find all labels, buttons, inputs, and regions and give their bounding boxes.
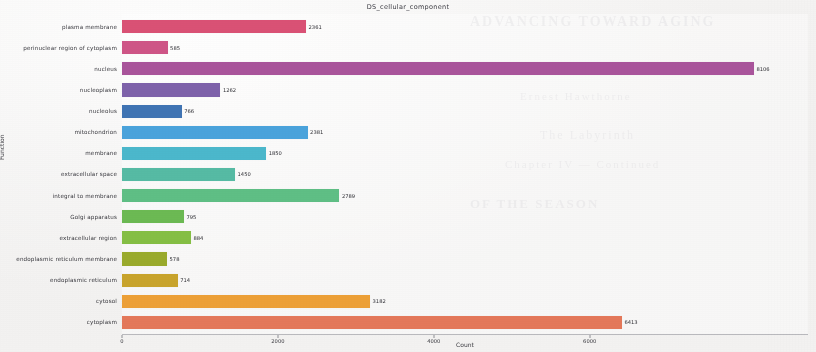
category-label: endoplasmic reticulum membrane xyxy=(16,256,117,262)
bar-value-label: 1450 xyxy=(238,171,251,177)
bar[interactable] xyxy=(122,20,306,33)
bar-row: cytosol3182 xyxy=(122,295,808,308)
category-label: cytoplasm xyxy=(87,319,117,325)
bar-row: nucleolus766 xyxy=(122,105,808,118)
bar-value-label: 2789 xyxy=(342,193,355,199)
bar[interactable] xyxy=(122,252,167,265)
bar[interactable] xyxy=(122,126,308,139)
category-label: Golgi apparatus xyxy=(70,214,117,220)
category-label: nucleus xyxy=(94,66,117,72)
category-label: nucleoplasm xyxy=(80,87,117,93)
chart-figure: DS_cellular_component Function Count pla… xyxy=(0,0,816,352)
bar-row: perinuclear region of cytoplasm585 xyxy=(122,41,808,54)
bar[interactable] xyxy=(122,316,622,329)
category-label: nucleolus xyxy=(89,108,117,114)
bar-series: plasma membrane2361perinuclear region of… xyxy=(122,14,808,335)
category-label: mitochondrion xyxy=(74,129,117,135)
bar-row: extracellular space1450 xyxy=(122,168,808,181)
bar-value-label: 585 xyxy=(170,45,180,51)
x-tick-label: 0 xyxy=(120,338,123,344)
bar-value-label: 766 xyxy=(184,108,194,114)
bar-row: integral to membrane2789 xyxy=(122,189,808,202)
bar-row: plasma membrane2361 xyxy=(122,20,808,33)
y-axis-title: Function xyxy=(0,134,5,160)
bar[interactable] xyxy=(122,41,168,54)
category-label: endoplasmic reticulum xyxy=(50,277,117,283)
bar-row: Golgi apparatus795 xyxy=(122,210,808,223)
bar-row: endoplasmic reticulum membrane578 xyxy=(122,252,808,265)
bar[interactable] xyxy=(122,168,235,181)
bar-value-label: 1262 xyxy=(223,87,236,93)
category-label: perinuclear region of cytoplasm xyxy=(23,45,117,51)
bar[interactable] xyxy=(122,295,370,308)
bar-row: nucleus8106 xyxy=(122,62,808,75)
bar-row: cytoplasm6413 xyxy=(122,316,808,329)
bar-value-label: 2361 xyxy=(309,24,322,30)
bar[interactable] xyxy=(122,210,184,223)
bar-value-label: 1850 xyxy=(269,150,282,156)
bar-row: endoplasmic reticulum714 xyxy=(122,274,808,287)
bar-value-label: 578 xyxy=(170,256,180,262)
bar-row: extracellular region884 xyxy=(122,231,808,244)
bar-value-label: 2381 xyxy=(310,129,323,135)
bar[interactable] xyxy=(122,274,178,287)
x-tick-label: 6000 xyxy=(583,338,596,344)
bar[interactable] xyxy=(122,147,266,160)
chart-title: DS_cellular_component xyxy=(0,3,816,11)
category-label: membrane xyxy=(85,150,117,156)
category-label: extracellular region xyxy=(60,235,118,241)
bar[interactable] xyxy=(122,189,339,202)
bar-value-label: 8106 xyxy=(756,66,769,72)
bar[interactable] xyxy=(122,231,191,244)
bar-value-label: 795 xyxy=(186,214,196,220)
bar-value-label: 884 xyxy=(193,235,203,241)
category-label: extracellular space xyxy=(61,171,117,177)
x-tick-label: 2000 xyxy=(271,338,284,344)
bar-row: membrane1850 xyxy=(122,147,808,160)
x-axis-title: Count xyxy=(122,341,808,348)
bar-value-label: 3182 xyxy=(373,298,386,304)
plot-area: plasma membrane2361perinuclear region of… xyxy=(122,14,808,335)
category-label: cytosol xyxy=(96,298,117,304)
bar[interactable] xyxy=(122,62,754,75)
category-label: integral to membrane xyxy=(53,193,117,199)
bar[interactable] xyxy=(122,83,220,96)
x-tick-label: 4000 xyxy=(427,338,440,344)
bar-value-label: 714 xyxy=(180,277,190,283)
bar[interactable] xyxy=(122,105,182,118)
bar-row: mitochondrion2381 xyxy=(122,126,808,139)
bar-value-label: 6413 xyxy=(624,319,637,325)
bar-row: nucleoplasm1262 xyxy=(122,83,808,96)
category-label: plasma membrane xyxy=(62,24,117,30)
